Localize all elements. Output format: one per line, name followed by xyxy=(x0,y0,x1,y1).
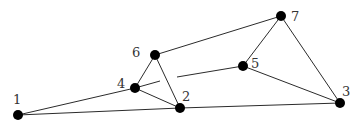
labels-layer: 1234567 xyxy=(13,9,350,107)
edge-2-3 xyxy=(180,103,340,108)
node-label-5: 5 xyxy=(251,56,259,71)
node-label-3: 3 xyxy=(342,84,350,99)
node-6 xyxy=(150,50,160,60)
node-4 xyxy=(130,83,140,93)
node-label-6: 6 xyxy=(132,45,140,60)
node-2 xyxy=(175,103,185,113)
node-label-1: 1 xyxy=(13,92,21,107)
graph-diagram: 1234567 xyxy=(0,0,360,127)
edge-7-5 xyxy=(243,16,281,66)
node-7 xyxy=(276,11,286,21)
edge-7-3 xyxy=(281,16,340,103)
edge-6-7 xyxy=(155,16,281,55)
edge-4-5-segment-2 xyxy=(177,66,243,77)
edge-4-2 xyxy=(135,88,180,108)
nodes-layer xyxy=(13,11,345,120)
node-label-7: 7 xyxy=(291,9,299,24)
edge-5-3 xyxy=(243,66,340,103)
edges-layer xyxy=(18,16,340,115)
node-1 xyxy=(13,110,23,120)
node-5 xyxy=(238,61,248,71)
node-label-4: 4 xyxy=(117,76,125,91)
node-3 xyxy=(335,98,345,108)
node-label-2: 2 xyxy=(182,89,190,104)
